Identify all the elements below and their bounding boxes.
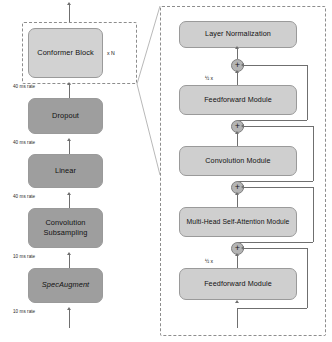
rate-label-dropout-input: 40 ms rate	[13, 140, 35, 145]
conformer-architecture-diagram: Conformer Block x N 40 ms rate Dropout 4…	[0, 0, 332, 342]
residual-skip-top-3	[244, 187, 313, 188]
arrowhead-mhsa-to-junction3	[235, 192, 239, 195]
residual-skip-top-1	[244, 65, 307, 66]
residual-arrowhead-4	[241, 246, 244, 250]
arrowhead-conv-to-junction2	[235, 131, 239, 134]
residual-arrowhead-1	[241, 63, 244, 67]
rate-label-subsampling-input: 10 ms rate	[13, 254, 35, 259]
connector-dropout-to-conformer	[69, 84, 70, 98]
residual-skip-bottom-1	[237, 120, 307, 121]
encoder-pipeline-column: Conformer Block x N 40 ms rate Dropout 4…	[0, 0, 160, 342]
block-linear[interactable]: Linear	[28, 154, 103, 188]
residual-skip-bottom-3	[237, 242, 313, 243]
encoder-output-line	[69, 4, 70, 22]
connector-linear-to-dropout	[69, 140, 70, 154]
rate-label-specaugment-input: 10 ms rate	[13, 309, 35, 314]
arrowhead-linear-to-dropout	[67, 138, 71, 141]
arrowhead-ff1-to-junction1	[235, 70, 239, 73]
connector-ff1-to-junction1	[237, 72, 238, 85]
block-specaugment[interactable]: SpecAugment	[28, 268, 103, 303]
arrowhead-ff2-to-junction4	[235, 253, 239, 256]
connector-ff2-to-junction4	[237, 255, 238, 268]
block-conformer-block[interactable]: Conformer Block	[28, 28, 103, 78]
module-convolution[interactable]: Convolution Module	[179, 146, 297, 176]
rate-label-conformer-input: 40 ms rate	[13, 84, 35, 89]
residual-arrowhead-2	[241, 124, 244, 128]
convolution-subsampling-line2: Subsampling	[44, 228, 88, 238]
conformer-block-detail-panel: Layer Normalization + ½ x Feedforward Mo…	[160, 6, 326, 336]
arrowhead-junction1-to-layernorm	[235, 46, 239, 49]
rate-label-linear-input: 40 ms rate	[13, 194, 35, 199]
encoder-output-arrowhead	[67, 2, 71, 5]
arrowhead-subsampling-to-linear	[67, 192, 71, 195]
module-feedforward-top[interactable]: Feedforward Module	[179, 85, 297, 115]
feedforward-half-scale-label-top: ½ x	[205, 75, 213, 81]
convolution-subsampling-line1: Convolution	[45, 218, 85, 228]
arrowhead-specaugment-to-subsampling	[67, 252, 71, 255]
residual-skip-vertical-4	[307, 248, 308, 308]
conformer-block-input-line	[237, 308, 238, 328]
module-layer-normalization[interactable]: Layer Normalization	[179, 21, 297, 48]
residual-skip-top-4	[244, 248, 307, 249]
conformer-block-input-arrowhead	[235, 300, 239, 303]
feedforward-half-scale-label-bottom: ½ x	[205, 258, 213, 264]
block-dropout[interactable]: Dropout	[28, 98, 103, 134]
module-feedforward-bottom[interactable]: Feedforward Module	[179, 268, 297, 300]
block-convolution-subsampling[interactable]: Convolution Subsampling	[28, 208, 103, 248]
connector-subsampling-to-linear	[69, 194, 70, 208]
encoder-input-arrowhead	[67, 307, 71, 310]
repeat-count-label: x N	[107, 50, 115, 56]
connector-specaugment-to-subsampling	[69, 254, 70, 268]
encoder-input-line	[69, 309, 70, 328]
residual-skip-vertical-3	[313, 187, 314, 242]
connector-mhsa-to-junction3	[237, 194, 238, 207]
residual-skip-vertical-2	[313, 126, 314, 181]
residual-skip-bottom-4	[237, 308, 307, 309]
residual-skip-bottom-2	[237, 181, 313, 182]
connector-junction1-to-layernorm	[237, 48, 238, 59]
residual-skip-top-2	[244, 126, 313, 127]
arrowhead-dropout-to-conformer	[67, 82, 71, 85]
module-multi-head-self-attention[interactable]: Multi-Head Self-Attention Module	[179, 207, 297, 237]
residual-skip-vertical-1	[307, 65, 308, 120]
residual-arrowhead-3	[241, 185, 244, 189]
connector-conv-to-junction2	[237, 133, 238, 146]
